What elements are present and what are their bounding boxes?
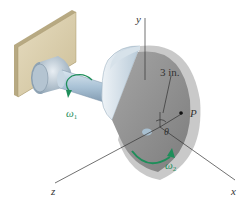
z-axis-label: z xyxy=(51,186,55,197)
x-axis-label: x xyxy=(231,186,236,197)
diagram-canvas xyxy=(0,0,249,200)
omega2-symbol: ω xyxy=(165,159,173,171)
point-p-marker xyxy=(179,111,183,115)
omega2-subscript: 2 xyxy=(173,165,177,173)
mechanics-figure: y 3 in. P θ x z ω1 ω2 xyxy=(0,0,249,200)
omega1-symbol: ω xyxy=(66,107,74,119)
omega1-subscript: 1 xyxy=(74,113,78,121)
y-axis-label: y xyxy=(136,14,141,25)
dimension-label: 3 in. xyxy=(160,67,180,78)
omega1-label: ω1 xyxy=(66,108,77,121)
theta-label: θ xyxy=(164,127,169,137)
point-p-label: P xyxy=(190,108,197,119)
omega2-label: ω2 xyxy=(165,160,176,173)
